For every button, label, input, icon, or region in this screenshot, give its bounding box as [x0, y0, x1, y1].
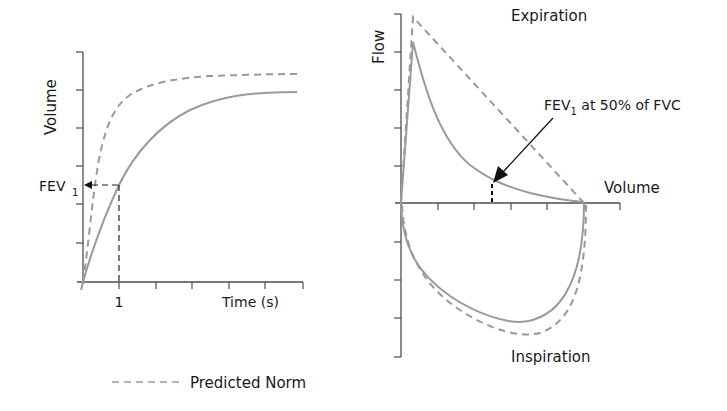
left-measured-curve: [81, 92, 297, 290]
flow-volume-chart: Flow Expiration Inspiration Volume FEV1 …: [370, 7, 681, 366]
legend: Predicted Norm: [112, 374, 306, 392]
right-x-ticks: [438, 203, 620, 210]
right-measured-inspiration-curve: [401, 203, 584, 322]
fev1-label: FEV: [39, 178, 66, 194]
annotation-arrow-shaft: [503, 118, 553, 172]
left-y-axis-label: Volume: [42, 79, 60, 135]
right-y-axis-label: Flow: [370, 30, 388, 64]
left-predicted-norm-curve: [83, 74, 300, 282]
left-x-axis-label: Time (s): [221, 294, 279, 310]
right-y-ticks: [394, 14, 401, 357]
legend-label-predicted-norm: Predicted Norm: [190, 374, 306, 392]
right-x-axis-label: Volume: [604, 179, 660, 197]
inspiration-label: Inspiration: [511, 348, 591, 366]
volume-time-chart: Volume 1 Time (s) FEV 1: [39, 52, 303, 310]
left-y-ticks: [76, 52, 83, 243]
fev1-50-annotation: FEV1 at 50% of FVC: [544, 97, 681, 117]
figure-canvas: Volume 1 Time (s) FEV 1: [0, 0, 727, 411]
fev1-arrow-head: [84, 181, 92, 189]
right-measured-expiration-curve: [401, 42, 584, 203]
left-x-ticks: [119, 282, 303, 289]
left-x-tick-label-1: 1: [115, 294, 124, 310]
right-predicted-inspiration-curve: [402, 205, 586, 334]
expiration-label: Expiration: [511, 7, 587, 25]
fev1-label-subscript: 1: [72, 187, 78, 198]
